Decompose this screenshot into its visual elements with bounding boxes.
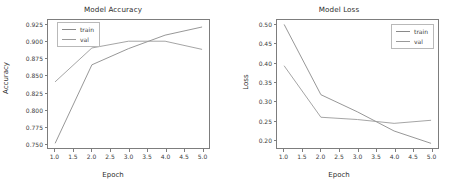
y-tick-label: 0.825	[0, 89, 43, 96]
x-tick-label: 1.5	[68, 153, 78, 160]
legend-label-val: val	[80, 36, 89, 43]
y-tick-mark	[45, 144, 48, 145]
y-tick-mark	[274, 63, 277, 64]
y-tick-label: 0.925	[0, 21, 43, 28]
legend-item-val: val	[396, 38, 428, 45]
y-tick-label: 0.850	[0, 72, 43, 79]
x-tick-label: 3.0	[124, 153, 134, 160]
x-tick-mark	[54, 149, 55, 152]
x-tick-label: 4.0	[161, 153, 171, 160]
x-tick-label: 3.5	[142, 153, 152, 160]
accuracy-legend: train val	[57, 22, 100, 47]
x-tick-mark	[395, 149, 396, 152]
legend-label-val: val	[414, 38, 423, 45]
loss-chart-title: Model Loss	[226, 5, 452, 14]
accuracy-chart-panel: Model Accuracy Accuracy Epoch train val …	[0, 0, 226, 184]
x-tick-mark	[432, 149, 433, 152]
x-tick-label: 3.5	[371, 153, 381, 160]
legend-swatch-train-icon	[396, 31, 410, 32]
x-tick-mark	[283, 149, 284, 152]
x-tick-label: 5.0	[427, 153, 437, 160]
y-tick-label: 0.25	[226, 117, 272, 124]
y-tick-label: 0.45	[226, 40, 272, 47]
x-tick-label: 2.5	[334, 153, 344, 160]
y-tick-label: 0.875	[0, 55, 43, 62]
legend-swatch-val-icon	[396, 41, 410, 42]
y-tick-label: 0.900	[0, 38, 43, 45]
x-tick-mark	[320, 149, 321, 152]
x-tick-mark	[302, 149, 303, 152]
legend-swatch-val-icon	[62, 39, 76, 40]
y-tick-mark	[274, 82, 277, 83]
x-tick-label: 5.0	[198, 153, 208, 160]
y-tick-label: 0.35	[226, 79, 272, 86]
x-tick-mark	[91, 149, 92, 152]
legend-item-val: val	[62, 36, 94, 43]
y-tick-label: 0.30	[226, 98, 272, 105]
y-tick-label: 0.800	[0, 106, 43, 113]
x-tick-label: 1.0	[50, 153, 60, 160]
y-tick-mark	[45, 93, 48, 94]
y-tick-label: 0.750	[0, 140, 43, 147]
x-tick-mark	[339, 149, 340, 152]
x-tick-label: 4.5	[408, 153, 418, 160]
y-tick-label: 0.50	[226, 20, 272, 27]
x-tick-label: 1.0	[279, 153, 289, 160]
loss-chart-panel: Model Loss Loss Epoch train val 0.500.45…	[226, 0, 452, 184]
x-tick-mark	[147, 149, 148, 152]
accuracy-x-axis-label: Epoch	[0, 171, 226, 179]
y-tick-mark	[274, 121, 277, 122]
x-tick-label: 3.0	[353, 153, 363, 160]
y-tick-mark	[274, 140, 277, 141]
legend-item-train: train	[62, 26, 94, 33]
loss-legend: train val	[391, 24, 434, 49]
x-tick-mark	[358, 149, 359, 152]
y-tick-mark	[274, 24, 277, 25]
x-tick-label: 4.5	[179, 153, 189, 160]
y-tick-mark	[45, 24, 48, 25]
y-tick-label: 0.775	[0, 123, 43, 130]
x-tick-mark	[129, 149, 130, 152]
x-tick-label: 2.0	[316, 153, 326, 160]
figure-canvas: Model Accuracy Accuracy Epoch train val …	[0, 0, 452, 184]
accuracy-chart-title: Model Accuracy	[0, 5, 226, 14]
x-tick-mark	[110, 149, 111, 152]
x-tick-label: 2.0	[87, 153, 97, 160]
legend-label-train: train	[80, 26, 94, 33]
x-tick-mark	[203, 149, 204, 152]
legend-swatch-train-icon	[62, 29, 76, 30]
x-tick-mark	[184, 149, 185, 152]
y-tick-mark	[45, 41, 48, 42]
x-tick-label: 1.5	[297, 153, 307, 160]
x-tick-label: 4.0	[390, 153, 400, 160]
x-tick-label: 2.5	[105, 153, 115, 160]
y-tick-mark	[45, 127, 48, 128]
x-tick-mark	[166, 149, 167, 152]
y-tick-mark	[274, 101, 277, 102]
series-line-val	[284, 66, 430, 123]
y-tick-mark	[274, 43, 277, 44]
y-tick-mark	[45, 58, 48, 59]
y-tick-label: 0.40	[226, 59, 272, 66]
y-tick-mark	[45, 75, 48, 76]
loss-x-axis-label: Epoch	[226, 171, 452, 179]
x-tick-mark	[376, 149, 377, 152]
x-tick-mark	[73, 149, 74, 152]
y-tick-label: 0.20	[226, 137, 272, 144]
series-line-val	[55, 41, 201, 81]
legend-label-train: train	[414, 28, 428, 35]
x-tick-mark	[413, 149, 414, 152]
legend-item-train: train	[396, 28, 428, 35]
y-tick-mark	[45, 110, 48, 111]
